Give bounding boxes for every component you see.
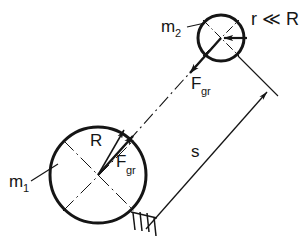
label-force-on-m1: F gr <box>116 152 136 176</box>
label-force-on-m2: F gr <box>191 74 211 97</box>
label-force-m1-base: F <box>116 152 126 171</box>
label-mass-m1: m 1 <box>9 172 29 194</box>
label-m2-base: m <box>161 17 175 36</box>
label-m1-base: m <box>9 172 23 191</box>
label-R: R <box>90 131 102 150</box>
label-m1-subscript: 1 <box>23 182 29 194</box>
reference-hatching <box>131 212 157 236</box>
label-radius-relation: r ≪ R <box>251 9 299 29</box>
label-force-m1-subscript: gr <box>126 164 136 176</box>
label-mass-m2: m 2 <box>161 17 181 39</box>
gravitation-figure: m 2 r ≪ R F gr R F gr m 1 s <box>0 0 301 248</box>
distance-dimension-s <box>146 92 267 229</box>
leader-line-m1 <box>31 164 58 181</box>
label-force-m2-subscript: gr <box>201 85 211 97</box>
label-s: s <box>191 142 200 161</box>
label-force-m2-base: F <box>191 74 201 93</box>
label-m2-subscript: 2 <box>175 27 181 39</box>
m1-crosshairs <box>63 140 134 211</box>
label-distance-s: s <box>191 142 200 161</box>
force-arrow-on-m2 <box>190 38 221 73</box>
extension-line-m2 <box>238 56 278 96</box>
physics-diagram-canvas: m 2 r ≪ R F gr R F gr m 1 s <box>0 0 301 248</box>
label-r-much-less-than-R: r ≪ R <box>251 9 299 29</box>
label-radius-R: R <box>90 131 102 150</box>
